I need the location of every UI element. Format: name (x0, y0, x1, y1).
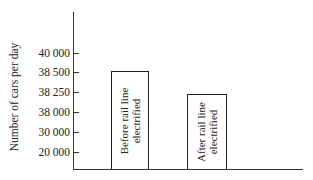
bar-after-electrified: After rail line electrified (187, 94, 227, 169)
bar-label-line: electrified (207, 102, 219, 162)
y-tick-label: 38 250 (38, 86, 70, 98)
y-tick-label: 30 000 (38, 126, 70, 138)
y-tick-label: 38 500 (38, 66, 70, 78)
y-tick-label: 38 000 (38, 106, 70, 118)
bar-label: After rail line electrified (195, 102, 219, 162)
y-tick-label: 40 000 (38, 47, 70, 59)
bar-label: Before rail line electrified (118, 87, 142, 154)
y-tick-label: 20 000 (38, 146, 70, 158)
bar-label-line: electrified (130, 87, 142, 154)
y-tick (73, 132, 79, 133)
y-tick (73, 92, 79, 93)
y-tick (73, 53, 79, 54)
y-axis-label: Number of cars per day (8, 27, 20, 167)
y-tick (73, 112, 79, 113)
y-tick (73, 152, 79, 153)
y-axis-line (73, 12, 74, 170)
bar-label-line: Before rail line (118, 87, 130, 154)
x-axis-line (73, 169, 303, 170)
bar-label-line: After rail line (195, 102, 207, 162)
y-tick (73, 72, 79, 73)
bar-before-electrified: Before rail line electrified (111, 71, 149, 169)
